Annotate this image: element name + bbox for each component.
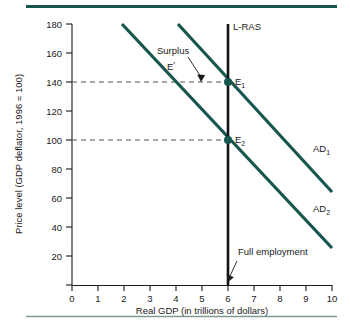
point-label-e1-sub: 1 (241, 82, 245, 89)
figure-container: 180 160 140 120 100 80 60 40 20 Price le… (0, 0, 350, 324)
y-tick-label: 120 (46, 106, 62, 117)
annotation-e-prime: E′ (167, 59, 175, 72)
annotation-full-employment: Full employment (238, 246, 308, 257)
curve-label-ad2-sub: 2 (326, 209, 330, 216)
annotation-surplus-arrowhead (197, 75, 205, 82)
curve-label-ad2: AD2 (313, 203, 330, 216)
curve-label-ad1-sub: 1 (326, 149, 330, 156)
y-tick-label: 160 (46, 48, 62, 59)
point-label-e2-sub: 2 (241, 140, 245, 147)
x-tick-label: 4 (173, 293, 178, 304)
y-tick-label: 100 (46, 135, 62, 146)
point-e2 (224, 136, 232, 144)
y-tick-label: 60 (51, 193, 62, 204)
x-tick-label: 5 (199, 293, 204, 304)
x-tick-label: 9 (303, 293, 308, 304)
annotation-full-employment-arrow-line (230, 261, 237, 276)
y-tick-label: 20 (51, 251, 62, 262)
y-tick-label: 40 (51, 222, 62, 233)
y-axis-ticks (66, 24, 72, 285)
x-tick-label: 6 (225, 293, 230, 304)
x-tick-label: 10 (327, 293, 338, 304)
y-tick-label: 180 (46, 19, 62, 30)
x-tick-label: 7 (251, 293, 256, 304)
point-e1 (224, 78, 232, 86)
curve-label-ad2-text: AD (313, 203, 326, 214)
x-tick-label: 8 (277, 293, 282, 304)
x-tick-label: 2 (121, 293, 126, 304)
annotation-surplus: Surplus (157, 45, 189, 56)
x-tick-label: 1 (95, 293, 100, 304)
curve-label-ad1: AD1 (313, 143, 330, 156)
economics-chart: 180 160 140 120 100 80 60 40 20 Price le… (0, 0, 350, 324)
x-tick-label: 0 (69, 293, 74, 304)
y-tick-label: 140 (46, 77, 62, 88)
y-axis-title: Price level (GDP deflator, 1996 = 100) (13, 74, 24, 234)
x-tick-label: 3 (147, 293, 152, 304)
annotation-surplus-arrow-line (188, 57, 201, 77)
curve-label-ad1-text: AD (313, 143, 326, 154)
curve-label-lras: L-RAS (233, 21, 261, 32)
y-tick-label: 80 (51, 164, 62, 175)
annotation-e-prime-mark: ′ (173, 59, 175, 70)
x-axis-title: Real GDP (in trillions of dollars) (136, 305, 268, 316)
